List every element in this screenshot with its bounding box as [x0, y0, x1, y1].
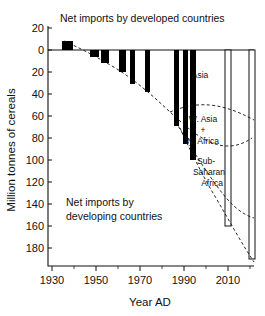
bar-1990 [183, 50, 188, 144]
axis-frame [48, 26, 254, 266]
y-tick-label: 120 [26, 176, 44, 188]
annotation-west-asia-line1: W. Asia [189, 114, 218, 124]
cereal-imports-chart: Million tonnes of cereals 20 0 20 40 60 … [0, 0, 265, 316]
y-tick-label: 140 [26, 198, 44, 210]
annotation-west-asia-plus: + [201, 125, 206, 135]
x-tick-label: 1950 [84, 274, 108, 286]
annotation-asia: Asia [192, 70, 209, 80]
bar-1935 [62, 41, 73, 50]
bar-2020-projected [249, 50, 255, 259]
annotation-north-africa-line2: N. Africa [187, 136, 219, 146]
bar-1973 [145, 50, 150, 92]
bar-1953 [101, 50, 109, 63]
bar-group-historic [62, 41, 196, 160]
x-tick-marks-major [52, 266, 228, 271]
x-tick-label: 1990 [172, 274, 196, 286]
chart-title-top: Net imports by developed countries [60, 12, 225, 24]
x-axis-label: Year AD [129, 296, 171, 308]
y-tick-label: 180 [26, 242, 44, 254]
annotation-developing-line1: Net imports by [66, 196, 134, 208]
y-tick-label: 160 [26, 220, 44, 232]
y-tick-label: 40 [32, 88, 44, 100]
y-tick-label: 100 [26, 154, 44, 166]
y-axis-label: Million tonnes of cereals [5, 88, 17, 212]
x-tick-label: 1930 [40, 274, 64, 286]
x-tick-label: 1970 [128, 274, 152, 286]
y-tick-label: 60 [32, 110, 44, 122]
annotation-subsaharan-line3: Africa [201, 178, 223, 188]
y-tick-label: 20 [32, 22, 44, 34]
y-tick-label: 80 [32, 132, 44, 144]
y-tick-label: 20 [32, 66, 44, 78]
bar-group-projected [225, 50, 255, 259]
y-tick-marks [48, 28, 52, 248]
bar-1961 [119, 50, 126, 72]
figure-container: Million tonnes of cereals 20 0 20 40 60 … [0, 0, 265, 316]
bar-1986 [174, 50, 179, 126]
x-tick-label: 2010 [216, 274, 240, 286]
annotation-subsaharan-line1: Sub- [197, 156, 215, 166]
annotation-developing-line2: developing countries [66, 210, 162, 222]
annotation-subsaharan-line2: Saharan [193, 167, 225, 177]
y-tick-label: 0 [38, 44, 44, 56]
